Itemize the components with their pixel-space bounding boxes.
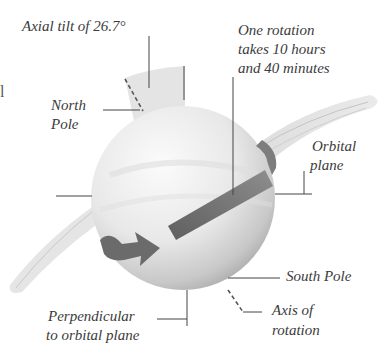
orbital-ring-front xyxy=(10,205,100,293)
edge-text-fragment: l xyxy=(0,83,4,101)
north-pole-label-line2: Pole xyxy=(51,116,79,133)
rotation-label-line2: takes 10 hours xyxy=(238,41,326,58)
diagram-graphic xyxy=(0,0,384,354)
orbital-plane-label-line1: Orbital xyxy=(312,138,356,155)
perpendicular-label-line1: Perpendicular xyxy=(48,308,135,325)
axis-of-rotation-label-line2: rotation xyxy=(272,322,320,339)
rotation-label-line3: and 40 minutes xyxy=(238,60,330,77)
orbital-plane-label-line2: plane xyxy=(310,157,343,174)
axis-of-rotation-label-line1: Axis of xyxy=(272,302,313,319)
axial-tilt-label: Axial tilt of 26.7° xyxy=(22,18,126,35)
south-pole-label: South Pole xyxy=(286,268,351,285)
north-pole-label-line1: North xyxy=(51,97,86,114)
planet-rotation-diagram: l Axial tilt of 26.7° One rotation takes… xyxy=(0,0,384,354)
rotation-label-line1: One rotation xyxy=(238,22,315,39)
axis-dashed-south xyxy=(228,290,243,312)
perpendicular-label-line2: to orbital plane xyxy=(46,327,139,344)
